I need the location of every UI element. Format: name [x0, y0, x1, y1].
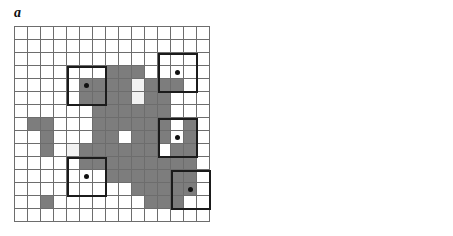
grid-cell [15, 92, 28, 105]
grid-cell [184, 196, 197, 209]
grid-cell [158, 196, 171, 209]
sample-dot [188, 187, 193, 192]
grid-cell [93, 105, 106, 118]
grid-cell [28, 40, 41, 53]
grid-cell [41, 105, 54, 118]
grid-cell [158, 170, 171, 183]
grid-cell [145, 92, 158, 105]
grid-cell [145, 131, 158, 144]
grid-cell [132, 92, 145, 105]
grid-cell [119, 209, 132, 222]
grid-cell [15, 53, 28, 66]
grid-cell [158, 53, 171, 66]
grid-cell [184, 183, 197, 196]
panel-a: a [0, 0, 226, 236]
grid-cell [67, 79, 80, 92]
grid-cell [119, 118, 132, 131]
grid-cell [67, 53, 80, 66]
grid-cell [106, 209, 119, 222]
grid-cell [106, 131, 119, 144]
grid-cell [132, 105, 145, 118]
grid-cell [197, 66, 210, 79]
grid-cell [145, 118, 158, 131]
grid-cell [106, 170, 119, 183]
grid-cell [158, 66, 171, 79]
grid-cell [132, 66, 145, 79]
grid-cell [93, 118, 106, 131]
grid-cell [28, 27, 41, 40]
grid-cell [41, 170, 54, 183]
grid-cell [28, 79, 41, 92]
grid-cell [197, 92, 210, 105]
grid-cell [171, 157, 184, 170]
grid-cell [197, 183, 210, 196]
grid-cell [15, 209, 28, 222]
grid-cell [158, 157, 171, 170]
grid-cell [80, 131, 93, 144]
grid-cell [119, 157, 132, 170]
grid-cell [171, 105, 184, 118]
grid-cell [158, 105, 171, 118]
grid-cell [184, 40, 197, 53]
grid-cell [197, 131, 210, 144]
grid-cell [119, 196, 132, 209]
grid-cell [106, 27, 119, 40]
grid-cell [158, 144, 171, 157]
grid-cell [171, 118, 184, 131]
grid-cell [171, 209, 184, 222]
grid-cell [41, 118, 54, 131]
grid-cell [41, 27, 54, 40]
grid-cell [106, 92, 119, 105]
grid-cell [171, 92, 184, 105]
grid-cell [54, 79, 67, 92]
grid-cell [158, 118, 171, 131]
grid-cell [119, 92, 132, 105]
grid-cell [106, 157, 119, 170]
grid-cell [184, 79, 197, 92]
grid-cell [106, 66, 119, 79]
grid-cell [80, 40, 93, 53]
grid-cell [145, 209, 158, 222]
grid-cell [184, 118, 197, 131]
grid-cell [197, 40, 210, 53]
grid-cell [171, 27, 184, 40]
grid-cell [145, 40, 158, 53]
grid-cell [80, 209, 93, 222]
panel-a-label: a [14, 6, 21, 20]
grid-cell [15, 170, 28, 183]
panel-a-grid-wrapper [14, 26, 210, 222]
grid-cell [15, 66, 28, 79]
grid-cell [119, 53, 132, 66]
grid-cell [132, 131, 145, 144]
grid-cell [54, 131, 67, 144]
grid-cell [67, 131, 80, 144]
figure-container: a b ××××××××××××××××××××××××××××××××××××… [0, 0, 453, 236]
grid-cell [67, 40, 80, 53]
grid-cell [132, 118, 145, 131]
grid-cell [197, 157, 210, 170]
grid-cell [54, 196, 67, 209]
grid-cell [93, 79, 106, 92]
grid-cell [67, 157, 80, 170]
grid-cell [54, 92, 67, 105]
grid-cell [54, 144, 67, 157]
grid-cell [132, 27, 145, 40]
panel-b: b ××××××××××××××××××××××××××××××××××××××… [226, 0, 453, 236]
grid-cell [15, 183, 28, 196]
grid-cell [119, 131, 132, 144]
grid-cell [80, 79, 93, 92]
grid-cell [145, 196, 158, 209]
grid-cell [67, 105, 80, 118]
sample-dot [84, 83, 89, 88]
grid-cell [132, 144, 145, 157]
grid-cell [67, 27, 80, 40]
grid-cell [145, 66, 158, 79]
grid-cell [132, 53, 145, 66]
grid-cell [197, 170, 210, 183]
grid-cell [171, 183, 184, 196]
grid-cell [41, 53, 54, 66]
grid-cell [15, 40, 28, 53]
grid-cell [93, 92, 106, 105]
grid-cell [28, 53, 41, 66]
grid-cell [145, 144, 158, 157]
